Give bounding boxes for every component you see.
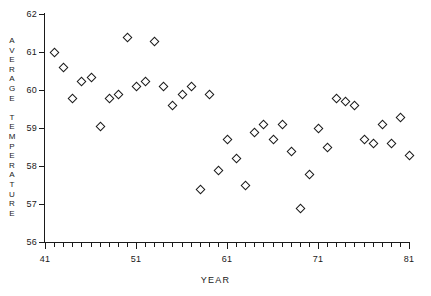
x-axis-tick-minor [200, 243, 201, 247]
x-axis-tick-minor [263, 243, 264, 247]
x-axis-tick-major [318, 243, 319, 249]
x-axis-tick-minor [109, 243, 110, 247]
x-axis-title: YEAR [0, 275, 431, 285]
x-axis-tick-minor [245, 243, 246, 247]
x-axis-tick-minor [218, 243, 219, 247]
x-axis-tick-minor [400, 243, 401, 247]
x-axis-tick-minor [373, 243, 374, 247]
x-axis-tick-minor [282, 243, 283, 247]
y-axis-tick-label: 61 [7, 48, 37, 57]
x-axis-tick-major [227, 243, 228, 249]
x-axis-tick-minor [209, 243, 210, 247]
x-axis-tick-minor [291, 243, 292, 247]
x-axis-tick-minor [154, 243, 155, 247]
x-axis-tick-minor [327, 243, 328, 247]
x-axis-tick-minor [336, 243, 337, 247]
x-axis-tick-minor [118, 243, 119, 247]
x-axis-tick-major [136, 243, 137, 249]
x-axis-tick-label: 61 [215, 254, 239, 264]
x-axis-tick-label: 41 [33, 254, 57, 264]
y-axis-tick-label: 62 [7, 10, 37, 19]
x-axis-tick-minor [273, 243, 274, 247]
x-axis-tick-minor [172, 243, 173, 247]
scatter-chart: A V E R A G E T E M P E R A T U R E 5657… [0, 0, 431, 296]
x-axis-tick-major [409, 243, 410, 249]
y-axis-tick-label: 60 [7, 86, 37, 95]
x-axis-tick-minor [145, 243, 146, 247]
x-axis-tick-minor [54, 243, 55, 247]
x-axis-tick-minor [364, 243, 365, 247]
x-axis-tick-label: 71 [306, 254, 330, 264]
y-axis-tick-label: 56 [7, 238, 37, 247]
x-axis-tick-minor [254, 243, 255, 247]
x-axis-tick-minor [127, 243, 128, 247]
y-axis-tick-label: 58 [7, 162, 37, 171]
x-axis-tick-major [45, 243, 46, 249]
x-axis-tick-minor [300, 243, 301, 247]
x-axis-tick-label: 81 [397, 254, 421, 264]
x-axis-tick-minor [72, 243, 73, 247]
x-axis-tick-minor [391, 243, 392, 247]
x-axis-tick-minor [309, 243, 310, 247]
x-axis-tick-minor [182, 243, 183, 247]
y-axis-tick-label: 57 [7, 200, 37, 209]
x-axis-tick-minor [91, 243, 92, 247]
x-axis-tick-label: 51 [124, 254, 148, 264]
x-axis-tick-minor [191, 243, 192, 247]
x-axis-tick-minor [163, 243, 164, 247]
x-axis-tick-minor [63, 243, 64, 247]
x-axis-tick-minor [354, 243, 355, 247]
x-axis-tick-minor [345, 243, 346, 247]
x-axis-tick-minor [236, 243, 237, 247]
x-axis-tick-minor [81, 243, 82, 247]
y-axis-tick-label: 59 [7, 124, 37, 133]
x-axis-tick-minor [382, 243, 383, 247]
x-axis-tick-minor [100, 243, 101, 247]
